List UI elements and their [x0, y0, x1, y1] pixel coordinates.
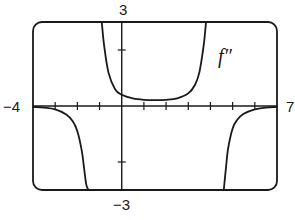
curve-branch-3 — [224, 107, 277, 190]
curve-label-f-double-prime: f″ — [218, 46, 232, 66]
x-max-label: 7 — [286, 99, 294, 114]
plot-area — [0, 0, 295, 220]
x-min-label: −4 — [3, 99, 20, 114]
curve-branch-2 — [102, 22, 206, 100]
curve-branch-1 — [33, 107, 88, 190]
y-max-label: 3 — [119, 2, 127, 17]
y-min-label: −3 — [113, 197, 130, 212]
